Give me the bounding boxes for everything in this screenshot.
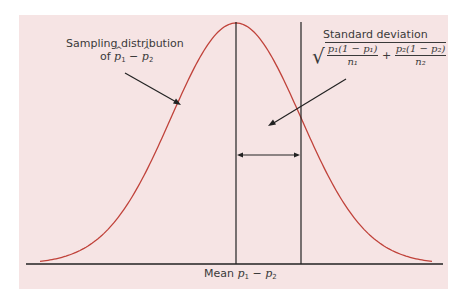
- curve-pointer-arrow: [125, 73, 178, 103]
- mean-label: Mean p1 − p2: [204, 268, 277, 283]
- arrowhead-right-icon: [294, 153, 300, 158]
- curve-label-line1: Sampling distribution: [66, 38, 184, 50]
- sd-label: Standard deviation: [323, 29, 428, 41]
- arrowhead-left-icon: [237, 153, 243, 158]
- curve-label-line2: of p1 − p2: [66, 51, 184, 66]
- sqrt-icon: √: [312, 44, 325, 68]
- curve-label: Sampling distribution of p1 − p2: [66, 38, 184, 66]
- p1-hat: p: [114, 51, 121, 63]
- sd-pointer-arrowhead-icon: [268, 120, 276, 127]
- p2-hat: p: [142, 51, 149, 63]
- sd-formula: √ p₁(1 − p₁)n₁ + p₂(1 − p₂)n₂: [312, 42, 446, 68]
- sd-pointer-arrow: [272, 79, 346, 124]
